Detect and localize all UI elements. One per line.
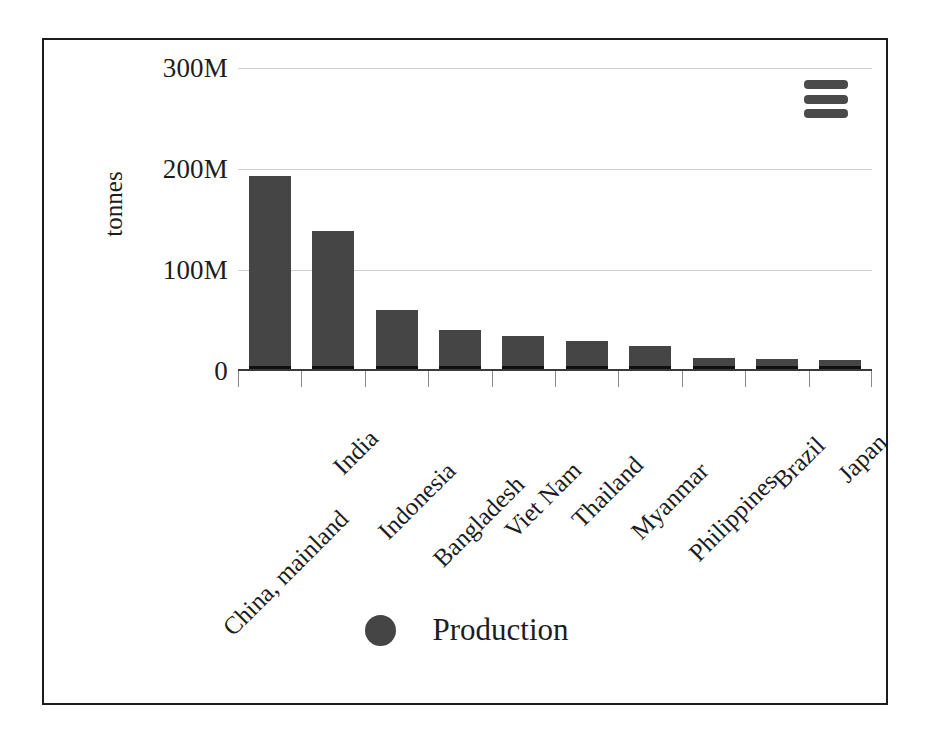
bar-slot (745, 68, 808, 371)
bar[interactable] (376, 310, 418, 371)
bar-slot (618, 68, 681, 371)
y-axis-tick-labels: 0100M200M300M (64, 68, 228, 371)
bar-series-production (238, 68, 872, 371)
x-axis-ticks (238, 371, 872, 387)
bar-slot (365, 68, 428, 371)
bar-slot (301, 68, 364, 371)
bar-slot (809, 68, 872, 371)
bar-slot (555, 68, 618, 371)
x-axis-tick (555, 371, 556, 387)
bar-slot (238, 68, 301, 371)
y-axis-tick-label: 200M (78, 156, 228, 183)
bar[interactable] (502, 336, 544, 371)
plot-area (238, 68, 872, 371)
y-axis-tick-label: 0 (78, 358, 228, 385)
x-axis-tick (365, 371, 366, 387)
x-axis-tick (492, 371, 493, 387)
bar[interactable] (629, 346, 671, 371)
bar-slot (682, 68, 745, 371)
x-axis-tick (871, 371, 872, 387)
bar[interactable] (312, 231, 354, 371)
x-axis-tick (618, 371, 619, 387)
y-axis-tick-label: 100M (78, 257, 228, 284)
x-axis-tick (301, 371, 302, 387)
x-axis-tick (682, 371, 683, 387)
x-axis-category-label: Japan (873, 388, 926, 448)
x-axis-tick (428, 371, 429, 387)
y-axis-tick-label: 300M (78, 55, 228, 82)
bar[interactable] (249, 176, 291, 371)
bar-slot (492, 68, 555, 371)
chart-frame: tonnes 0100M200M300M China, mainlandIndi… (42, 38, 888, 705)
bar[interactable] (439, 330, 481, 371)
bar[interactable] (566, 341, 608, 371)
chart-legend[interactable]: Production (44, 612, 890, 648)
bar-slot (428, 68, 491, 371)
legend-label-production: Production (432, 612, 568, 648)
legend-marker-production (365, 615, 396, 646)
x-axis-tick (745, 371, 746, 387)
x-axis-tick (809, 371, 810, 387)
x-axis-category-labels: China, mainlandIndiaIndonesiaBangladeshV… (238, 388, 872, 578)
x-axis-tick (238, 371, 239, 387)
